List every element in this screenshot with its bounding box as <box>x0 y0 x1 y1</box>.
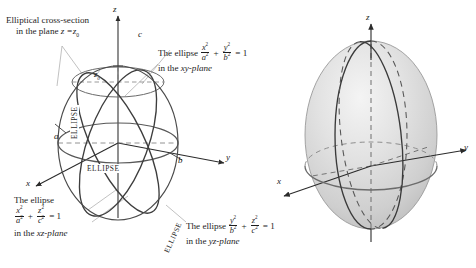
fraction-x2-a2-denominator: a2 <box>201 52 210 62</box>
fraction-z2-c2-yz-denominator: c2 <box>251 225 259 235</box>
caption-yz-the-ellipse: The ellipse <box>186 221 226 232</box>
num-exp-2b: 2 <box>228 41 231 47</box>
caption-yz-equation: The ellipse y2 b2 + z2 c2 = 1 <box>186 217 276 236</box>
point-label-a: a <box>54 131 59 141</box>
num-exp-2-xz: 2 <box>20 204 23 210</box>
x-axis-label-right: x <box>277 176 281 186</box>
caption-yz-plus: + <box>240 221 248 232</box>
fraction-y2-b2-yz-denominator: b2 <box>229 225 238 235</box>
wireframe-ellipsoid-panel: z y x c a b z0 ELLIPSE ELLIPSE ELLIPSE E… <box>0 0 276 268</box>
figure-root: z y x c a b z0 ELLIPSE ELLIPSE ELLIPSE E… <box>0 0 476 268</box>
caption-in-the-plane: in the plane <box>16 26 58 36</box>
x-axis-label: x <box>26 178 30 188</box>
plane-height-label: z0 <box>94 70 100 79</box>
caption-xy-equals-one: = 1 <box>234 48 249 59</box>
fraction-z2-c2-yz: z2 c2 <box>251 217 259 236</box>
fraction-y2-b2-yz: y2 b2 <box>229 217 238 236</box>
caption-z-naught-sub: 0 <box>76 32 79 38</box>
caption-yz-plane-line2: in the yz-plane <box>186 236 276 247</box>
fraction-x2-a2-xz: x2 a2 <box>15 207 24 226</box>
fraction-y2-b2: y2 b2 <box>223 44 232 63</box>
den-exp-2: 2 <box>206 51 209 57</box>
den-exp-2b: 2 <box>228 51 231 57</box>
caption-xz-plus: + <box>26 211 34 222</box>
num-exp-2y-yz: 2 <box>234 214 237 220</box>
caption-cross-section-line2: in the plane z =z0 <box>6 26 89 37</box>
y-axis-label: y <box>226 152 230 162</box>
caption-xz-plane-name: xz-plane <box>37 228 68 238</box>
point-label-b: b <box>178 155 183 165</box>
caption-cross-section: Elliptical cross-section in the plane z … <box>6 15 89 37</box>
caption-xy-the-ellipse: The ellipse <box>158 48 198 59</box>
caption-yz-in-the: in the <box>186 236 206 246</box>
den-exp-2-xz: 2 <box>20 214 23 220</box>
den-exp-2c-yz: 2 <box>255 224 258 230</box>
caption-xy-equation: The ellipse x2 a2 + y2 b2 = 1 <box>158 44 249 63</box>
y-axis-label-right: y <box>464 142 468 152</box>
caption-xz-plane-line3: in the xz-plane <box>14 228 68 239</box>
num-exp-2z-xz: 2 <box>41 204 44 210</box>
ellipse-label-xy-plane: ELLIPSE <box>86 164 121 173</box>
plane-height-subscript: 0 <box>97 76 100 81</box>
caption-yz-plane-ellipse: The ellipse y2 b2 + z2 c2 = 1 in the yz-… <box>186 217 276 247</box>
den-exp-2b-yz: 2 <box>234 224 237 230</box>
caption-cross-section-line1: Elliptical cross-section <box>6 15 89 26</box>
caption-xz-equation: x2 a2 + z2 c2 = 1 <box>14 207 63 226</box>
caption-xy-plus: + <box>212 48 220 59</box>
caption-xy-plane-line2: in the xy-plane <box>158 63 249 74</box>
caption-xz-equals-one: = 1 <box>48 211 63 222</box>
fraction-z2-c2-xz: z2 c2 <box>37 207 45 226</box>
fraction-z2-c2-xz-denominator: c2 <box>37 216 45 226</box>
ellipse-label-xz-plane: ELLIPSE <box>70 105 79 140</box>
num-exp-2z-yz: 2 <box>255 214 258 220</box>
caption-xz-plane-ellipse: The ellipse x2 a2 + z2 c2 = 1 in the xz-… <box>14 195 68 239</box>
shaded-ellipsoid-panel: z y x <box>276 0 476 268</box>
z-axis-label: z <box>113 4 117 14</box>
fraction-x2-a2: x2 a2 <box>201 44 210 63</box>
fraction-x2-a2-xz-denominator: a2 <box>15 216 24 226</box>
num-exp-2: 2 <box>206 41 209 47</box>
z-axis-label-right: z <box>366 12 370 22</box>
den-exp-2c-xz: 2 <box>42 214 45 220</box>
caption-z-equals: z = <box>61 26 73 36</box>
caption-yz-plane-name: yz-plane <box>209 236 240 246</box>
caption-xy-plane-ellipse: The ellipse x2 a2 + y2 b2 = 1 in the xy-… <box>158 44 249 74</box>
shaded-ellipsoid-svg <box>276 0 476 268</box>
caption-xy-in-the: in the <box>158 63 178 73</box>
point-label-c: c <box>138 29 142 39</box>
caption-xz-in-the: in the <box>14 228 34 238</box>
caption-yz-equals-one: = 1 <box>261 221 276 232</box>
caption-xy-plane-name: xy-plane <box>181 63 212 73</box>
fraction-y2-b2-denominator: b2 <box>223 52 232 62</box>
